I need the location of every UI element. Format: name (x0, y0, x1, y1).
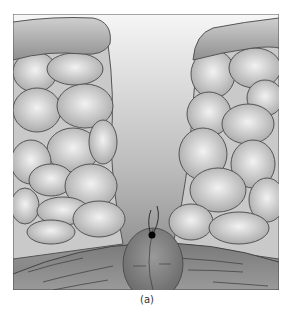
illustration (13, 14, 279, 290)
figure-caption: (a) (0, 294, 294, 305)
tissue-diagram (13, 14, 279, 290)
nucleus-dot (149, 232, 156, 239)
left-cell-layer (13, 44, 125, 259)
